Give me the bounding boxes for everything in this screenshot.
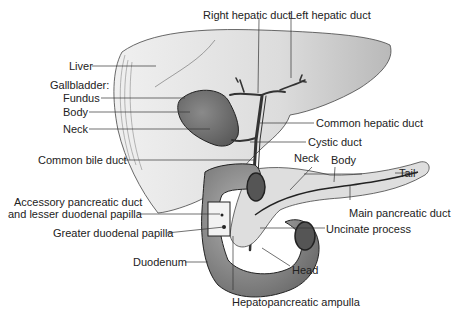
- label-tail: Tail: [399, 167, 416, 179]
- label-head: Head: [292, 264, 318, 276]
- label-pancreas-body: Body: [331, 154, 356, 166]
- label-liver: Liver: [69, 60, 93, 72]
- label-gallbladder-neck: Neck: [63, 123, 88, 135]
- label-main-pancreatic-duct: Main pancreatic duct: [349, 207, 451, 219]
- duodenal-window: [208, 202, 230, 236]
- label-fundus: Fundus: [63, 92, 100, 104]
- label-lesser-duodenal-papilla: and lesser duodenal papilla: [8, 208, 136, 220]
- label-common-bile-duct: Common bile duct: [38, 154, 127, 166]
- label-common-hepatic-duct: Common hepatic duct: [316, 117, 423, 129]
- label-right-hepatic-duct: Right hepatic duct: [203, 9, 291, 21]
- label-accessory-pancreatic-duct: Accessory pancreatic duct: [14, 196, 136, 208]
- duodenum-cut-end-upper: [247, 173, 265, 201]
- duodenum-cut-end-lower: [295, 222, 315, 250]
- label-gallbladder: Gallbladder:: [50, 79, 109, 91]
- label-cystic-duct: Cystic duct: [308, 136, 362, 148]
- label-greater-duodenal-papilla: Greater duodenal papilla: [53, 227, 173, 239]
- label-gallbladder-body: Body: [63, 106, 88, 118]
- label-hepatopancreatic-ampulla: Hepatopancreatic ampulla: [232, 296, 360, 308]
- label-pancreas-neck: Neck: [294, 152, 319, 164]
- label-duodenum: Duodenum: [133, 256, 187, 268]
- label-uncinate-process: Uncinate process: [326, 223, 411, 235]
- label-left-hepatic-duct: Left hepatic duct: [290, 9, 371, 21]
